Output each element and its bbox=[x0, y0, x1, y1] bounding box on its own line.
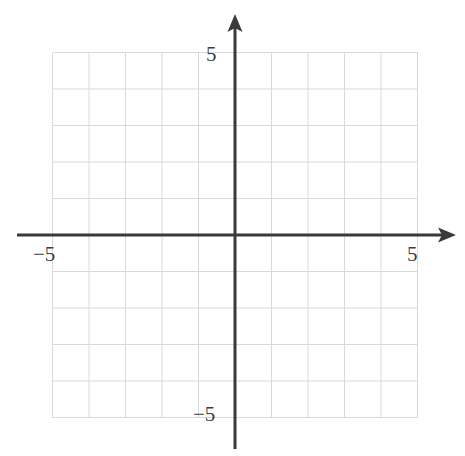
y-axis-tick-label-negative-five: −5 bbox=[193, 404, 215, 425]
x-axis-tick-label-negative-five: −5 bbox=[33, 244, 55, 265]
coordinate-grid-figure: −5 5 5 −5 bbox=[0, 0, 465, 456]
x-axis-tick-label-positive-five: 5 bbox=[407, 244, 418, 265]
axes-group bbox=[17, 14, 456, 449]
y-axis-tick-label-positive-five: 5 bbox=[206, 44, 217, 65]
cartesian-plane-svg bbox=[0, 0, 465, 456]
